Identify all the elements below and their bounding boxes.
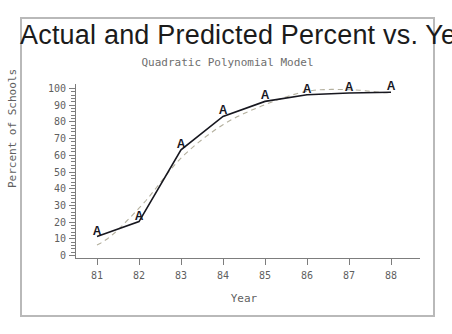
data-point-marker: A (93, 226, 102, 236)
y-tick (69, 188, 76, 189)
y-tick (69, 138, 76, 139)
y-tick (69, 255, 76, 256)
x-tick (391, 259, 392, 265)
x-tick (181, 259, 182, 265)
y-tick (69, 121, 76, 122)
y-tick (69, 205, 76, 206)
y-tick (69, 172, 76, 173)
y-tick (69, 238, 76, 239)
y-tick-label: 10 (34, 234, 66, 243)
x-tick-label: 82 (124, 270, 154, 281)
y-tick-label: 40 (34, 184, 66, 193)
data-point-marker: A (135, 211, 144, 221)
x-tick (223, 259, 224, 265)
y-tick-label: 20 (34, 218, 66, 227)
x-tick (139, 259, 140, 265)
y-tick-label: 60 (34, 151, 66, 160)
y-tick (69, 155, 76, 156)
x-tick-label: 86 (292, 270, 322, 281)
x-tick (349, 259, 350, 265)
x-tick-label: 83 (166, 270, 196, 281)
y-tick-label: 70 (34, 134, 66, 143)
y-tick-label: 100 (34, 84, 66, 93)
x-tick-label: 87 (334, 270, 364, 281)
y-tick-label: 50 (34, 168, 66, 177)
data-point-marker: A (303, 84, 312, 94)
chart-figure: Actual and Predicted Percent vs. Year Qu… (0, 0, 452, 334)
data-point-marker: A (261, 90, 270, 100)
x-tick-label: 81 (82, 270, 112, 281)
data-point-marker: A (345, 82, 354, 92)
data-point-marker: A (219, 105, 228, 115)
y-tick (69, 88, 76, 89)
series-lines (76, 88, 412, 255)
x-tick-label: 88 (376, 270, 406, 281)
x-tick-label: 84 (208, 270, 238, 281)
y-axis-title: Percent of Schools (6, 9, 19, 249)
x-tick (265, 259, 266, 265)
x-tick (307, 259, 308, 265)
x-tick-label: 85 (250, 270, 280, 281)
chart-subtitle: Quadratic Polynomial Model (20, 56, 435, 69)
y-tick-label: 90 (34, 101, 66, 110)
x-axis-title: Year (76, 292, 412, 305)
x-axis-line (75, 258, 420, 259)
y-tick (69, 222, 76, 223)
y-tick-label: 80 (34, 117, 66, 126)
chart-title: Actual and Predicted Percent vs. Year (20, 20, 435, 51)
plot-area: AAAAAAAA (76, 88, 412, 255)
y-tick-label: 0 (34, 251, 66, 260)
data-point-marker: A (387, 81, 396, 91)
x-tick (97, 259, 98, 265)
y-tick-label: 30 (34, 201, 66, 210)
data-point-marker: A (177, 139, 186, 149)
y-tick (69, 105, 76, 106)
